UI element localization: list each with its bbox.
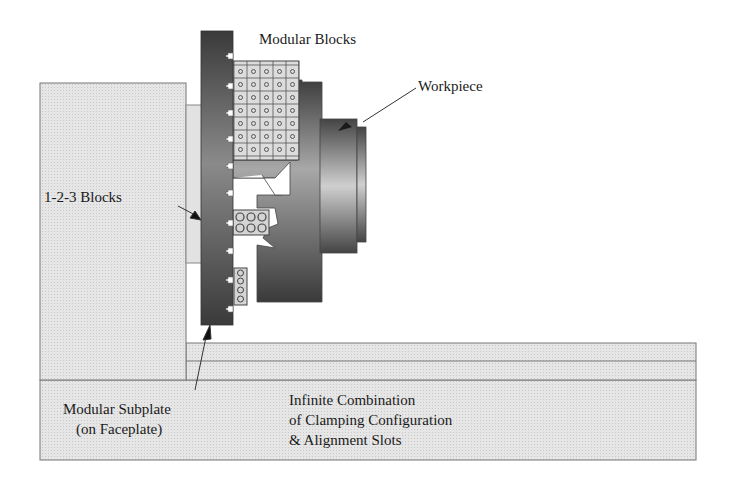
- label-123-blocks: 1-2-3 Blocks: [44, 189, 122, 205]
- label-subplate-line2: (on Faceplate): [76, 421, 162, 438]
- label-workpiece: Workpiece: [418, 78, 483, 94]
- label-subplate-line1: Modular Subplate: [63, 401, 171, 417]
- fixture-diagram: Modular Blocks Workpiece 1-2-3 Blocks Mo…: [0, 0, 742, 491]
- blocks-123: [186, 105, 202, 263]
- modular-subplate: [201, 31, 233, 325]
- label-combination-line3: & Alignment Slots: [289, 432, 402, 448]
- angle-plate: [40, 83, 186, 380]
- workpiece: [320, 119, 366, 253]
- label-combination-line1: Infinite Combination: [289, 392, 416, 408]
- label-modular-blocks: Modular Blocks: [259, 31, 356, 47]
- label-combination-line2: of Clamping Configuration: [289, 412, 453, 428]
